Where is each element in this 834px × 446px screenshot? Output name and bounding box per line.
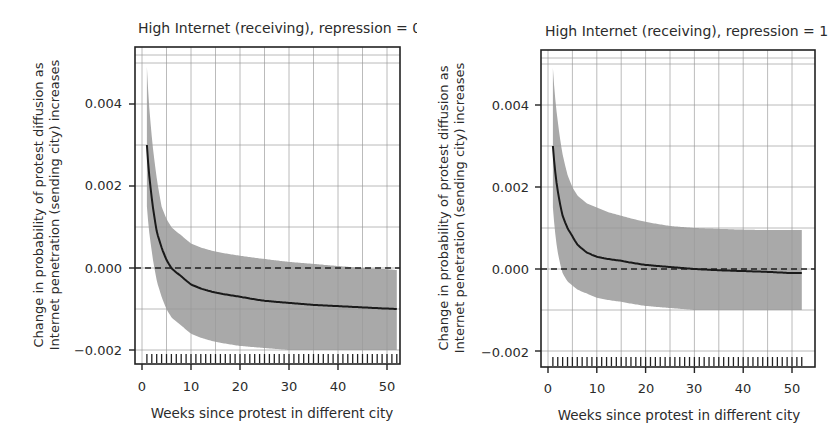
x-axis-title: Weeks since protest in different city [558, 407, 801, 423]
y-tick-label: 0.002 [85, 178, 122, 193]
x-tick-label: 40 [330, 379, 347, 394]
x-tick-label: 20 [232, 379, 249, 394]
plot-area [535, 50, 815, 373]
x-tick-label: 30 [281, 379, 298, 394]
plot-area [129, 47, 400, 370]
y-axis-title-line2: Internet penetration (sending city) incr… [47, 59, 62, 350]
x-tick-label: 0 [138, 379, 146, 394]
y-tick-label: 0.000 [492, 262, 529, 277]
y-tick-label: −0.002 [74, 343, 122, 358]
x-axis-title: Weeks since protest in different city [151, 405, 394, 421]
panel-title: High Internet (receiving), repression = … [138, 20, 417, 36]
y-tick-label: −0.002 [481, 345, 529, 360]
confidence-band [553, 68, 802, 310]
x-tick-label: 40 [735, 381, 752, 396]
x-tick-label: 50 [784, 381, 801, 396]
y-tick-label: 0.002 [492, 180, 529, 195]
x-tick-label: 50 [379, 379, 396, 394]
x-tick-label: 20 [638, 381, 655, 396]
panel-title: High Internet (receiving), repression = … [545, 23, 828, 39]
chart-panel-repression-1: High Internet (receiving), repression = … [417, 0, 834, 446]
y-axis-title-line1: Change in probability of protest diffusi… [436, 65, 451, 350]
y-tick-label: 0.000 [85, 261, 122, 276]
x-tick-label: 10 [589, 381, 606, 396]
y-axis-title-line1: Change in probability of protest diffusi… [31, 62, 46, 347]
x-tick-label: 10 [183, 379, 200, 394]
y-tick-label: 0.004 [85, 96, 122, 111]
y-tick-label: 0.004 [492, 98, 529, 113]
x-tick-label: 0 [544, 381, 552, 396]
y-axis-title-line2: Internet penetration (sending city) incr… [452, 62, 467, 353]
x-tick-label: 30 [686, 381, 703, 396]
chart-panel-repression-0: High Internet (receiving), repression = … [0, 0, 417, 446]
